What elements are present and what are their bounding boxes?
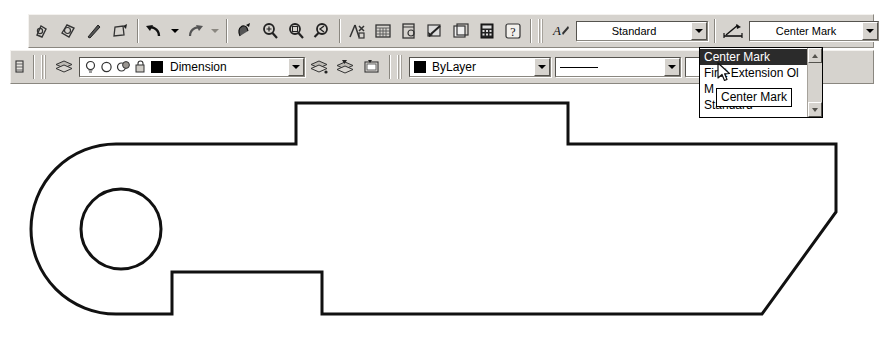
text-style-icon[interactable]: A	[549, 19, 573, 43]
properties-icon[interactable]	[345, 19, 369, 43]
match-properties-icon[interactable]	[30, 19, 54, 43]
zoom-window-icon[interactable]	[284, 19, 308, 43]
dimension-style-icon[interactable]	[720, 19, 746, 43]
linetype-combo[interactable]	[555, 57, 681, 77]
layer-freeze-thaw-icon	[100, 60, 113, 74]
color-combo-dropdown-arrow[interactable]	[534, 58, 550, 76]
layer-combo[interactable]: Dimension	[79, 57, 305, 77]
text-style-dropdown-arrow[interactable]	[691, 22, 707, 40]
layer-previous-icon[interactable]	[52, 55, 76, 79]
toolbar-grip[interactable]	[538, 19, 545, 43]
designcenter-icon[interactable]	[371, 19, 395, 43]
pan-realtime-icon[interactable]	[232, 19, 256, 43]
layer-combo-value: Dimension	[166, 60, 227, 74]
help-icon[interactable]: ?	[501, 19, 525, 43]
dimension-style-value: Center Mark	[750, 22, 862, 40]
layer-lock-unlock-icon	[134, 60, 148, 74]
layer-previous-2-icon[interactable]	[334, 55, 358, 79]
dimension-style-dropdown-arrow[interactable]	[862, 22, 878, 40]
toolbar-separator	[33, 55, 34, 79]
undo-icon[interactable]	[143, 19, 167, 43]
redo-dropdown-icon[interactable]	[209, 19, 221, 43]
layer-on-off-bulb-icon	[84, 60, 97, 74]
make-object-layer-current-icon[interactable]	[308, 55, 332, 79]
undo-dropdown-icon[interactable]	[169, 19, 181, 43]
zoom-realtime-icon[interactable]	[258, 19, 282, 43]
hatch-icon[interactable]	[108, 19, 132, 43]
bolt-hole-circle	[81, 189, 161, 269]
layer-freeze-viewport-icon	[116, 60, 131, 74]
redo-icon[interactable]	[183, 19, 207, 43]
tooltip: Center Mark	[716, 88, 792, 107]
toolbar-separator	[389, 55, 390, 79]
svg-text:?: ?	[510, 25, 515, 39]
toolbar-grip[interactable]	[41, 55, 48, 79]
dropdown-scrollbar[interactable]	[807, 48, 822, 117]
linetype-preview-icon	[560, 67, 598, 68]
layer-color-swatch-icon	[151, 61, 163, 73]
toolbar-row-standard: ? A Standard	[28, 14, 874, 48]
layer-properties-manager-icon[interactable]	[12, 55, 28, 79]
text-style-combo[interactable]: Standard	[576, 21, 708, 41]
linetype-combo-content	[556, 58, 664, 76]
screenshot-root: ? A Standard	[0, 0, 881, 353]
scroll-up-arrow-icon[interactable]	[808, 48, 822, 63]
toolbar-separator	[137, 19, 138, 43]
toolbar-separator	[530, 19, 531, 43]
color-swatch-icon	[414, 61, 426, 73]
layer-states-icon[interactable]	[360, 55, 384, 79]
toolbar-separator	[714, 19, 715, 43]
color-combo-value: ByLayer	[429, 60, 476, 74]
markup-set-icon[interactable]	[449, 19, 473, 43]
dimension-style-combo[interactable]: Center Mark	[749, 21, 879, 41]
point-icon[interactable]	[82, 19, 106, 43]
tool-palettes-icon[interactable]	[397, 19, 421, 43]
svg-text:A: A	[552, 23, 561, 38]
mouse-pointer-cursor	[717, 62, 733, 84]
color-combo[interactable]: ByLayer	[409, 57, 551, 77]
layer-combo-dropdown-arrow[interactable]	[288, 58, 304, 76]
color-combo-content: ByLayer	[410, 58, 534, 76]
linetype-combo-dropdown-arrow[interactable]	[664, 58, 680, 76]
sheet-set-icon[interactable]	[423, 19, 447, 43]
toolbar-grip[interactable]	[397, 55, 404, 79]
zoom-previous-icon[interactable]	[310, 19, 334, 43]
layer-combo-content: Dimension	[80, 58, 288, 76]
calculator-icon[interactable]	[475, 19, 499, 43]
scroll-down-arrow-icon[interactable]	[808, 102, 822, 117]
block-icon[interactable]	[56, 19, 80, 43]
toolbar-separator	[339, 19, 340, 43]
text-style-value: Standard	[577, 22, 691, 40]
drawing-canvas	[0, 86, 881, 353]
toolbar-separator	[226, 19, 227, 43]
